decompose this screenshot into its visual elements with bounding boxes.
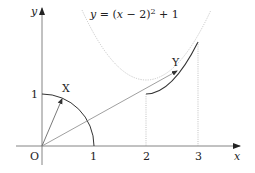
x-tick-3: 3 [195, 150, 202, 163]
x-axis-label: x [234, 150, 241, 163]
x-tick-2: 2 [143, 150, 150, 163]
point-x-label: X [62, 82, 70, 95]
origin-label: O [30, 150, 39, 163]
unit-arc [42, 94, 94, 146]
point-y-label: Y [171, 56, 180, 69]
parabola-diagram: y x O 1 2 3 1 X Y y = (x − 2)2 + 1 [0, 0, 255, 173]
y-tick-1: 1 [31, 88, 38, 101]
x-tick-1: 1 [90, 150, 97, 163]
vector-ox [42, 99, 62, 146]
y-axis-label: y [30, 5, 38, 18]
equation-label: y = (x − 2)2 + 1 [89, 7, 179, 21]
